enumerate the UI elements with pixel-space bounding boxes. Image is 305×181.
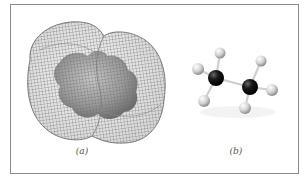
hydrogen-atom — [266, 84, 278, 96]
hydrogen-atom — [215, 48, 226, 59]
ball-and-stick-model — [192, 48, 278, 119]
carbon-atom — [242, 79, 258, 95]
panel-a-caption: (a) — [67, 146, 97, 156]
hydrogen-atom — [192, 63, 204, 75]
hydrogen-atom — [239, 102, 251, 114]
hydrogen-atom — [256, 56, 267, 67]
figure-canvas — [0, 0, 305, 181]
panel-b-caption: (b) — [221, 146, 251, 156]
carbon-atom — [208, 70, 224, 86]
density-mesh-surface — [28, 22, 165, 143]
hydrogen-atom — [198, 95, 210, 107]
